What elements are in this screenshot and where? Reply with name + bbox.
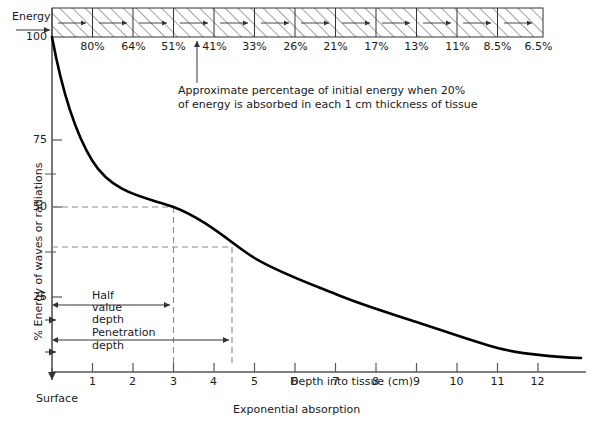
y-axis-ticks — [45, 140, 62, 352]
axes — [52, 8, 586, 372]
y-axis-title: % Energy of waves or radiations — [32, 132, 45, 372]
figure-caption: Exponential absorption — [233, 404, 360, 416]
half-value-depth-line3: depth — [92, 314, 124, 326]
x-tick-label-12: 12 — [527, 376, 548, 388]
dashed-guides — [52, 207, 232, 366]
x-tick-label-11: 11 — [487, 376, 508, 388]
y-tick-label-100: 100 — [25, 31, 47, 43]
energy-label: Energy — [12, 11, 51, 23]
x-tick-label-3: 3 — [163, 376, 184, 388]
x-tick-label-1: 1 — [82, 376, 103, 388]
exponential-absorption-figure: 80% 64% 51% 41% 33% 26% 21% 17% 13% 11% … — [0, 0, 596, 424]
x-tick-label-2: 2 — [122, 376, 143, 388]
penetration-depth-line2: depth — [92, 340, 124, 352]
penetration-depth-line1: Penetration — [92, 327, 155, 339]
x-tick-label-10: 10 — [446, 376, 467, 388]
x-tick-label-5: 5 — [244, 376, 265, 388]
absorption-note-line2: of energy is absorbed in each 1 cm thick… — [178, 99, 478, 111]
x-axis-title: Depth into tissue (cm) — [290, 376, 413, 388]
x-tick-label-4: 4 — [203, 376, 224, 388]
surface-label: Surface — [36, 393, 78, 405]
absorption-note-line1: Approximate percentage of initial energy… — [178, 85, 465, 97]
band-pct-11: 6.5% — [502, 41, 575, 53]
chart-svg — [0, 0, 596, 424]
absorption-band — [52, 8, 543, 37]
